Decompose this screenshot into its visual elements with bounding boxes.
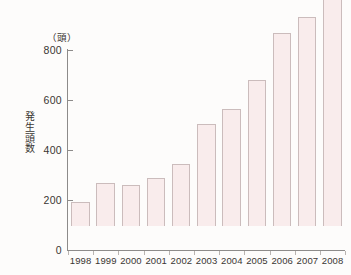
bar[interactable] xyxy=(222,109,241,226)
x-axis-tick xyxy=(320,251,321,255)
bar[interactable] xyxy=(96,183,115,226)
bar-slot xyxy=(244,0,269,226)
y-axis-tick-label: 0 xyxy=(22,245,62,256)
x-axis-tick xyxy=(169,251,170,255)
bar-slot xyxy=(194,0,219,226)
bars-layer xyxy=(68,0,345,251)
bar-slot xyxy=(270,0,295,226)
x-axis-tick xyxy=(295,251,296,255)
bar[interactable] xyxy=(197,124,216,226)
bar-slot xyxy=(144,0,169,226)
y-axis-title-char-2: 生 xyxy=(23,123,37,134)
bar[interactable] xyxy=(323,0,342,226)
bar-slot xyxy=(295,0,320,226)
bar[interactable] xyxy=(273,33,292,226)
bar-slot xyxy=(169,0,194,226)
x-axis-tick xyxy=(345,251,346,255)
y-axis-tick-label: 200 xyxy=(22,195,62,206)
bar[interactable] xyxy=(122,185,141,226)
x-axis-tick xyxy=(194,251,195,255)
y-axis-tick-label: 600 xyxy=(22,95,62,106)
bar-slot xyxy=(93,0,118,226)
bar[interactable] xyxy=(298,17,317,226)
bar[interactable] xyxy=(172,164,191,226)
bar[interactable] xyxy=(147,178,166,226)
bar-slot xyxy=(68,0,93,226)
bar-chart-figure: （頭） 発 生 頭 数 0200400600800 19981999200020… xyxy=(0,0,351,275)
bar-slot xyxy=(320,0,345,226)
bar[interactable] xyxy=(248,80,267,226)
x-axis-tick-label: 2008 xyxy=(318,256,348,266)
y-axis-tick-label: 400 xyxy=(22,145,62,156)
y-axis-tick-label: 800 xyxy=(22,45,62,56)
bar-slot xyxy=(118,0,143,226)
bar-slot xyxy=(219,0,244,226)
x-axis-tick xyxy=(68,251,69,255)
bar[interactable] xyxy=(71,202,90,227)
